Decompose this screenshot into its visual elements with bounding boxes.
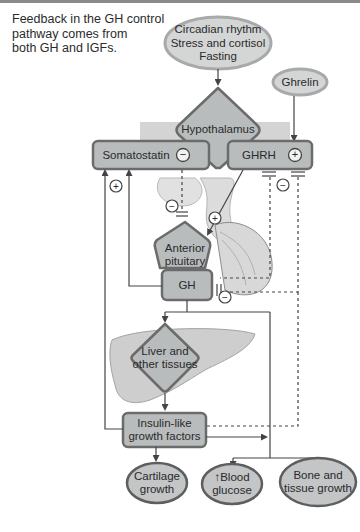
somatostatin-sign: − [177,148,189,161]
sign-label: + [209,212,221,225]
ghrh-label: GHRH [236,149,282,162]
ghrelin-label: Ghrelin [273,76,327,89]
liver-label: Liver and other tissues [125,345,205,371]
somatostatin-label: Somatostatin [100,149,172,162]
hypothalamus-label: Hypothalamus [178,123,258,136]
sign-label: − [219,291,231,304]
cartilage-label: Cartilage growth [127,470,187,496]
sign-label: + [110,180,122,193]
sign-label: − [166,200,178,213]
igf-label: Insulin-like growth factors [123,417,206,443]
blood-glucose-label: ↑Blood glucose [202,471,262,497]
gh-label: GH [162,279,212,292]
stimuli-label: Circadian rhythm Stress and cortisol Fas… [165,23,271,64]
anterior-pituitary-label: Anterior pituitary [155,242,215,268]
ghrh-sign: + [289,148,301,161]
bone-label: Bone and tissue growth [280,469,356,495]
sign-label: − [277,179,289,192]
